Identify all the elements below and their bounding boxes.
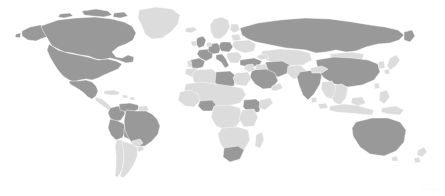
region-benelux	[206, 42, 212, 47]
region-baltics	[231, 34, 241, 41]
country-portugal	[187, 60, 192, 67]
country-ireland	[191, 41, 197, 46]
country-sri-lanka	[311, 97, 317, 103]
world-map-figure: world map	[0, 0, 445, 196]
world-map-svg	[0, 0, 445, 196]
island-tasmania	[392, 156, 398, 161]
map-watermark: world map	[421, 186, 441, 191]
region-korea	[378, 61, 385, 69]
